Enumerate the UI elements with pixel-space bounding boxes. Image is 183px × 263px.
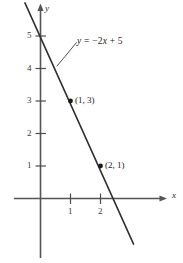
y-axis-arrowhead [37, 4, 43, 12]
point-label-2-1: (2, 1) [105, 161, 125, 170]
y-tick-label-4: 4 [27, 64, 32, 73]
equation-constant: 5 [118, 36, 123, 46]
x-tick-label-2: 2 [98, 207, 103, 216]
y-tick-label-3: 3 [27, 96, 32, 105]
x-axis-label: x [172, 191, 176, 200]
graph-figure: y x 5 4 3 2 1 1 2 y = −2x + 5 (1, 3) (2,… [0, 0, 183, 263]
point-marker-1-3 [68, 99, 73, 104]
point-label-1-3: (1, 3) [75, 96, 95, 105]
y-tick-label-2: 2 [27, 129, 32, 138]
x-tick-label-1: 1 [68, 207, 73, 216]
point-marker-2-1 [98, 164, 103, 169]
y-tick-label-5: 5 [27, 31, 32, 40]
x-axis-arrowhead [160, 196, 168, 202]
x-axis [14, 196, 167, 202]
equation-leader-line [57, 43, 77, 67]
y-axis-label: y [45, 4, 49, 13]
y-tick-label-1: 1 [27, 161, 32, 170]
equation-label: y = −2x + 5 [77, 37, 123, 47]
